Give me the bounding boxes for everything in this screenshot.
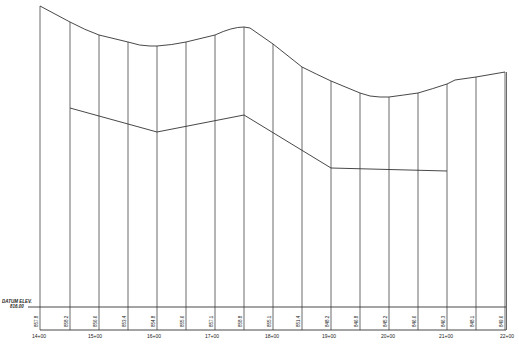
station-label: 15+00 bbox=[88, 333, 102, 339]
elevation-label: 848.2 bbox=[325, 315, 330, 327]
elevation-labels: 857.8858.2856.6853.4854.8855.6857.1858.8… bbox=[34, 315, 504, 327]
elevation-label: 846.8 bbox=[354, 315, 359, 327]
station-label: 22+00 bbox=[500, 333, 514, 339]
elevation-label: 849.6 bbox=[499, 315, 504, 327]
elevation-label: 854.8 bbox=[151, 315, 156, 327]
station-labels: 14+0015+0016+0017+0018+0019+0020+0021+00… bbox=[32, 333, 514, 339]
elevation-label: 858.2 bbox=[64, 315, 69, 327]
grade-profile-line bbox=[70, 108, 447, 171]
station-label: 14+00 bbox=[32, 333, 46, 339]
elevation-label: 851.4 bbox=[296, 315, 301, 327]
profile-drawing: DATUM ELEV. 816.00 857.8858.2856.6853.48… bbox=[0, 0, 519, 346]
ground-profile-line bbox=[40, 6, 505, 97]
station-label: 19+00 bbox=[322, 333, 336, 339]
elevation-label: 846.3 bbox=[441, 315, 446, 327]
station-label: 18+00 bbox=[265, 333, 279, 339]
elevation-label: 853.4 bbox=[122, 315, 127, 327]
station-label: 21+00 bbox=[439, 333, 453, 339]
elevation-label: 858.8 bbox=[238, 315, 243, 327]
elevation-label: 846.6 bbox=[412, 315, 417, 327]
station-label: 17+00 bbox=[205, 333, 219, 339]
elevation-label: 855.6 bbox=[180, 315, 185, 327]
elevation-label: 848.1 bbox=[470, 315, 475, 327]
station-label: 16+00 bbox=[147, 333, 161, 339]
station-label: 20+00 bbox=[381, 333, 395, 339]
elevation-label: 857.1 bbox=[209, 315, 214, 327]
elevation-label: 856.6 bbox=[93, 315, 98, 327]
elevation-label: 855.1 bbox=[267, 315, 272, 327]
datum-elevation: 816.00 bbox=[10, 304, 24, 309]
elevation-label: 845.2 bbox=[383, 315, 388, 327]
station-gridlines bbox=[40, 6, 507, 330]
elevation-label: 857.8 bbox=[34, 315, 39, 327]
